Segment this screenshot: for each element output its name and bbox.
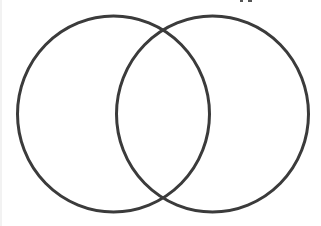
venn-circle-left — [18, 16, 210, 212]
cropped-text-fragment — [240, 0, 254, 3]
venn-diagram — [0, 0, 321, 226]
venn-diagram-canvas — [0, 0, 321, 226]
venn-circle-right — [117, 16, 309, 212]
